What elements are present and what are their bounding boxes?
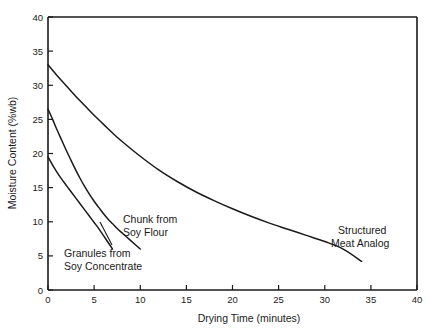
- x-tick-label-0: 0: [45, 294, 50, 305]
- y-tick-label-20: 20: [32, 148, 43, 159]
- x-axis-title: Drying Time (minutes): [198, 312, 301, 324]
- data-series-group: [48, 65, 362, 262]
- x-tick-label-20: 20: [227, 294, 238, 305]
- y-tick-label-35: 35: [32, 46, 43, 57]
- x-tick-label-5: 5: [91, 294, 96, 305]
- annotation-granules-from-soy-concentrate: Granules from Soy Concentrate: [64, 247, 142, 272]
- x-tick-label-10: 10: [135, 294, 146, 305]
- y-axis-tick-labels: 0 5 10 15 20 25 30 35 40: [32, 12, 43, 296]
- annotation-structured-meat-analog: Structured Meat Analog: [331, 224, 390, 249]
- y-tick-label-5: 5: [38, 250, 43, 261]
- annotation-structured-line2: Meat Analog: [331, 237, 390, 249]
- series-line-granules-from-soy-concentrate: [48, 157, 113, 249]
- x-tick-label-40: 40: [412, 294, 423, 305]
- series-line-structured-meat-analog: [48, 65, 362, 262]
- x-axis-tick-labels: 0 5 10 15 20 25 30 35 40: [45, 294, 422, 305]
- x-tick-label-15: 15: [181, 294, 192, 305]
- y-tick-label-10: 10: [32, 216, 43, 227]
- annotation-chunk-line1: Chunk from: [123, 213, 178, 225]
- annotation-granules-line1: Granules from: [64, 247, 131, 259]
- y-tick-label-25: 25: [32, 114, 43, 125]
- y-axis-title: Moisture Content (%wb): [6, 97, 18, 210]
- chart-container: 0 5 10 15 20 25 30 35 40 0 5 10 1: [0, 0, 437, 333]
- annotation-chunk-line2: Soy Flour: [123, 226, 168, 238]
- x-tick-label-25: 25: [273, 294, 284, 305]
- y-tick-label-30: 30: [32, 80, 43, 91]
- y-tick-label-15: 15: [32, 182, 43, 193]
- y-tick-label-40: 40: [32, 12, 43, 23]
- annotation-chunk-from-soy-flour: Chunk from Soy Flour: [123, 213, 178, 238]
- annotation-granules-line2: Soy Concentrate: [64, 260, 142, 272]
- x-tick-label-30: 30: [320, 294, 331, 305]
- line-chart: 0 5 10 15 20 25 30 35 40 0 5 10 1: [0, 0, 437, 333]
- annotation-structured-line1: Structured: [338, 224, 387, 236]
- y-tick-label-0: 0: [38, 285, 43, 296]
- x-tick-label-35: 35: [366, 294, 377, 305]
